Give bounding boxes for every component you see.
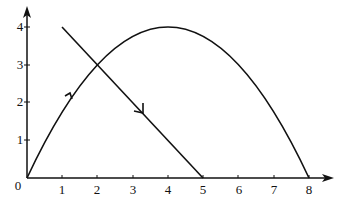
x-tick-label-6: 6 <box>236 182 243 197</box>
x-tick-label-8: 8 <box>306 182 313 197</box>
x-tick-label-7: 7 <box>271 182 278 197</box>
x-tick-label-2: 2 <box>94 182 101 197</box>
y-tick-label-1: 1 <box>17 132 24 147</box>
parabola-curve <box>27 27 309 178</box>
x-tick-label-4: 4 <box>165 182 172 197</box>
straight-line <box>62 27 203 178</box>
parabola-direction-arrow-icon <box>65 93 72 99</box>
x-tick-label-1: 1 <box>59 182 66 197</box>
y-tick-label-4: 4 <box>17 19 24 34</box>
y-tick-label-3: 3 <box>17 57 24 72</box>
y-tick-label-2: 2 <box>17 94 24 109</box>
x-tick-label-5: 5 <box>200 182 207 197</box>
x-tick-label-3: 3 <box>130 182 137 197</box>
origin-label: 0 <box>15 178 22 193</box>
diagram-canvas: 0 1 2 3 4 5 6 7 8 1 2 3 4 <box>0 0 338 210</box>
